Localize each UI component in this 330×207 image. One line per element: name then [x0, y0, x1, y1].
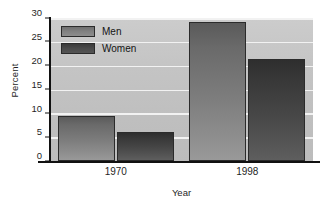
y-axis-tick-label: 10	[31, 103, 45, 113]
y-axis: 051015202530	[22, 18, 50, 164]
legend-swatch-women-icon	[61, 43, 95, 54]
y-axis-title-text: Percent	[9, 63, 20, 97]
bar-women-1970	[117, 132, 174, 161]
legend-label-men: Men	[102, 26, 121, 37]
x-axis: 19701998	[50, 166, 313, 182]
legend-swatch-men-icon	[61, 26, 95, 37]
bar-men-1970	[58, 116, 115, 161]
y-axis-tick-label: 20	[31, 56, 45, 66]
y-axis-tick-label: 30	[31, 8, 45, 18]
bar-women-1998	[248, 59, 305, 161]
gridline	[50, 18, 313, 20]
x-axis-title: Year	[50, 187, 313, 198]
x-axis-tick-label: 1970	[105, 166, 127, 177]
y-axis-tick-label: 0	[37, 151, 45, 161]
y-axis-tick-label: 15	[31, 80, 45, 90]
y-axis-line	[49, 17, 51, 162]
x-axis-tick-label: 1998	[236, 166, 258, 177]
y-axis-tick-label: 25	[31, 32, 45, 42]
plot-area: Men Women	[50, 18, 313, 161]
bar-men-1998	[189, 22, 246, 161]
legend-label-women: Women	[102, 43, 136, 54]
bar-chart-figure: Percent 051015202530 Men Women 19701998 …	[0, 0, 330, 207]
legend-item-men: Men	[61, 26, 136, 37]
x-axis-line	[38, 161, 320, 163]
y-axis-title: Percent	[4, 0, 24, 161]
y-axis-tick-label: 5	[37, 127, 45, 137]
legend-item-women: Women	[61, 43, 136, 54]
chart-legend: Men Women	[61, 26, 136, 54]
